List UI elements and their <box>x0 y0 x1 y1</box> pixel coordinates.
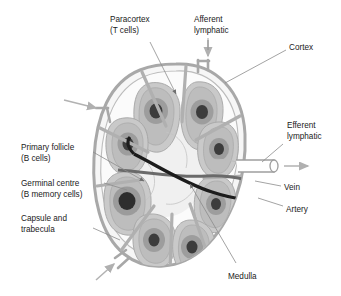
germinal-centre-core <box>149 234 160 247</box>
label-paracortex-line2: (T cells) <box>110 26 139 35</box>
label-artery: Artery <box>286 205 309 214</box>
label-paracortex-line1: Paracortex <box>110 15 150 24</box>
label-capsule-line2: trabecula <box>21 225 55 234</box>
label-cortex: Cortex <box>289 43 313 52</box>
germinal-centre-core <box>187 241 198 254</box>
germinal-centre-core <box>196 105 208 119</box>
leader-vein <box>255 181 281 186</box>
follicle <box>198 122 239 178</box>
label-primary-follicle-line1: Primary follicle <box>21 143 75 152</box>
germinal-centre-core <box>119 192 136 210</box>
label-germinal-centre-line1: Germinal centre <box>21 179 80 188</box>
efferent-lymphatic-duct <box>236 160 278 172</box>
leader-efferent <box>262 144 283 162</box>
leader-cortex <box>225 50 286 83</box>
follicle <box>173 220 216 276</box>
leader-artery <box>258 198 283 206</box>
germinal-centre-core <box>211 198 221 210</box>
label-afferent-line2: lymphatic <box>194 26 229 35</box>
label-efferent-line1: Efferent <box>287 121 316 130</box>
label-germinal-centre-line2: (B memory cells) <box>21 190 83 199</box>
label-primary-follicle-line2: (B cells) <box>21 154 51 163</box>
lymph-node-diagram: Paracortex (T cells) Afferent lymphatic … <box>0 0 341 296</box>
label-medulla: Medulla <box>228 272 257 281</box>
diagram-canvas: Paracortex (T cells) Afferent lymphatic … <box>0 0 341 296</box>
label-vein: Vein <box>284 183 300 192</box>
label-capsule-line1: Capsule and <box>21 214 67 223</box>
lymph-node-body <box>64 40 308 280</box>
label-efferent-line2: lymphatic <box>287 132 322 141</box>
germinal-centre-core <box>214 143 224 155</box>
label-afferent-line1: Afferent <box>194 15 223 24</box>
